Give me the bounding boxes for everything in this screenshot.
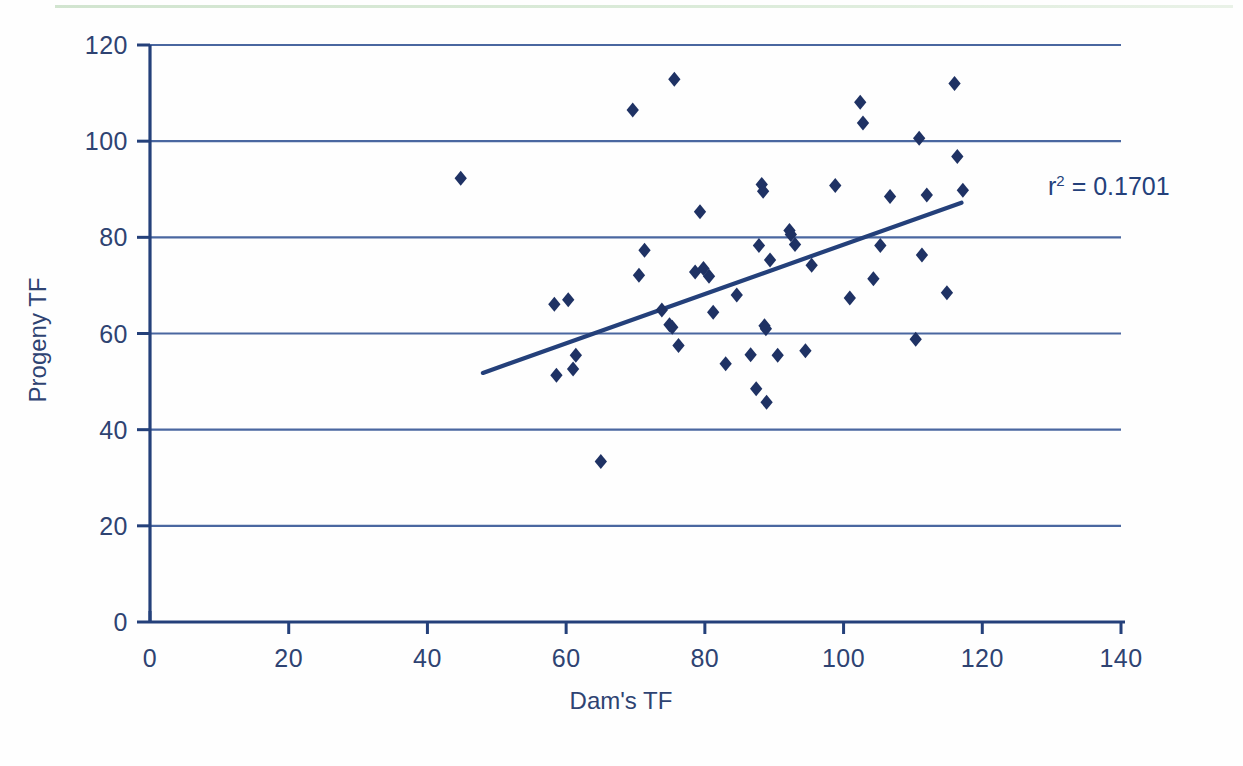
scatter-point [874,238,886,253]
scatter-point [638,243,650,258]
scatter-point [753,238,765,253]
trendline [483,203,962,373]
scatter-point [750,381,762,396]
scatter-point [633,268,645,283]
scatter-point [627,102,639,117]
x-tick-label-40: 40 [413,644,442,672]
scatter-point [867,271,879,286]
x-tick-label-60: 60 [552,644,581,672]
y-tick-label-0: 0 [114,608,128,636]
scatter-point [567,362,579,377]
y-tick-label-60: 60 [99,320,128,348]
y-tick-label-100: 100 [85,127,128,155]
scatter-point [455,171,467,186]
x-tick-label-80: 80 [690,644,719,672]
scatter-point [806,258,818,273]
data-points-group [455,72,969,469]
scatter-point [548,297,560,312]
scatter-point [570,348,582,363]
y-tick-group: 020406080100120 [85,31,150,636]
scatter-point [941,285,953,300]
scatter-point [948,76,960,91]
x-tick-label-20: 20 [274,644,303,672]
scatter-point [550,368,562,383]
x-tick-label-0: 0 [143,644,157,672]
scatter-point [760,395,772,410]
scatter-point [844,290,856,305]
scatter-point [694,204,706,219]
scatter-point [672,338,684,353]
scatter-plot: 020406080100120140 020406080100120 Dam's… [0,0,1243,766]
scatter-point [921,188,933,203]
chart-figure: 020406080100120140 020406080100120 Dam's… [0,0,1243,766]
x-tick-group: 020406080100120140 [143,611,1143,672]
scatter-point [720,356,732,371]
scatter-point [957,183,969,198]
y-tick-label-40: 40 [99,416,128,444]
x-tick-label-120: 120 [961,644,1004,672]
y-tick-label-80: 80 [99,223,128,251]
scatter-point [829,178,841,193]
y-tick-label-20: 20 [99,512,128,540]
scatter-point [764,252,776,267]
scatter-point [884,189,896,204]
r-squared-symbol: r [1048,172,1056,200]
scatter-point [916,248,928,263]
gridlines-group [150,45,1121,526]
scatter-point [656,302,668,317]
scatter-point [951,149,963,164]
scatter-point [731,288,743,303]
r-squared-exponent: 2 [1056,172,1064,189]
scatter-point [595,454,607,469]
scatter-point [772,348,784,363]
x-tick-label-100: 100 [822,644,865,672]
scatter-point [707,305,719,320]
r-squared-annotation: r2 = 0.1701 [1048,172,1170,200]
scatter-point [744,347,756,362]
y-axis-title: Progeny TF [24,278,51,403]
r-squared-value: = 0.1701 [1072,172,1170,200]
scatter-point [668,72,680,87]
scatter-point [562,292,574,307]
x-axis-title: Dam's TF [570,687,673,714]
scatter-point [854,95,866,110]
x-tick-label-140: 140 [1099,644,1142,672]
scatter-point [857,115,869,130]
y-tick-label-120: 120 [85,31,128,59]
scatter-point [799,343,811,358]
scatter-point [913,131,925,146]
regression-line [483,203,962,373]
